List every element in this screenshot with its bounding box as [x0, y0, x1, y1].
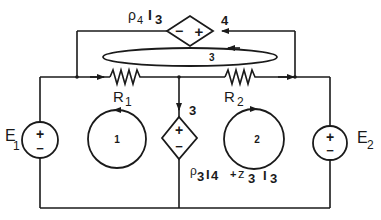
top-dep-i: I [148, 7, 152, 23]
mid-dep-rho: ρ [190, 164, 197, 178]
resistor-r2: R 2 [224, 70, 257, 109]
voltage-source-e2: + − E 2 [313, 126, 374, 160]
mid-dep-plus: + [175, 122, 183, 138]
r2-subscript: 2 [237, 95, 244, 109]
mid-dep-minus: − [175, 139, 183, 154]
mid-dep-i1: I [206, 167, 210, 182]
e1-plus: + [36, 126, 44, 142]
top-dep-minus: − [175, 23, 183, 39]
e1-minus: − [36, 141, 44, 156]
r1-label: R [113, 88, 124, 105]
mesh-loop-2: 2 [224, 106, 284, 169]
r1-subscript: 1 [125, 95, 132, 109]
mesh-loop-1: 1 [88, 107, 146, 168]
top-dep-plus: + [195, 23, 204, 40]
loop-1-label: 1 [114, 134, 120, 145]
branch-label-3: 3 [189, 103, 196, 118]
wires [40, 31, 330, 208]
mid-dep-z-sub: 3 [248, 171, 255, 186]
loop-2-label: 2 [254, 134, 260, 145]
circuit-diagram: R 1 R 2 + − E 1 + − E 2 − + ρ 4 I 3 4 3 [0, 0, 381, 220]
top-dep-rho: ρ [128, 7, 136, 23]
resistor-r1: R 1 [110, 70, 142, 109]
mid-dep-z: z [238, 166, 245, 181]
mid-dep-i1-sub: 4 [211, 168, 219, 183]
voltage-source-e1: + − E 1 [5, 122, 58, 158]
r2-label: R [224, 88, 235, 105]
e2-minus: − [326, 143, 334, 158]
top-dep-rho-sub: 4 [137, 14, 143, 26]
e2-subscript: 2 [367, 138, 374, 152]
loop-3-label: 3 [209, 52, 215, 63]
e1-subscript: 1 [13, 139, 20, 153]
mid-dep-i2: I [263, 168, 267, 183]
mesh-loop-3: 3 [103, 48, 277, 66]
dependent-source-top: − + ρ 4 I 3 4 [128, 7, 229, 46]
branch-label-4: 4 [221, 13, 229, 28]
mid-dep-rho-sub: 3 [197, 169, 204, 184]
mid-dep-plus-op: + [230, 168, 236, 180]
top-dep-i-sub: 3 [155, 12, 162, 27]
mid-dep-i2-sub: 3 [270, 171, 277, 186]
